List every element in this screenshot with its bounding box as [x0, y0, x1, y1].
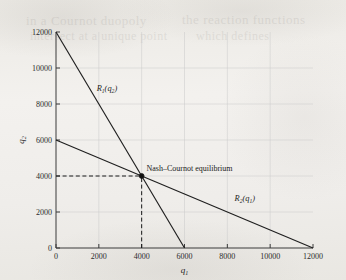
series-label-r2-arg-open: (q: [242, 194, 249, 203]
xticklabel-12000: 12000: [303, 252, 323, 261]
xticklabel-10000: 10000: [260, 252, 280, 261]
equilibrium-point-marker: [139, 174, 144, 179]
xticklabel-4000: 4000: [134, 252, 150, 261]
yticklabel-4000: 4000: [36, 172, 52, 181]
yticklabel-8000: 8000: [36, 100, 52, 109]
svg-text:R1(q2): R1(q2): [96, 84, 118, 94]
series-label-r1-arg-close: ): [113, 84, 117, 93]
yticklabel-6000: 6000: [36, 136, 52, 145]
chart-canvas: 0 2000 4000 6000 8000 10000 12000 0 2000…: [0, 0, 346, 280]
grid-lines: [56, 32, 313, 248]
x-axis-title: q1: [181, 265, 189, 276]
series-label-r1: R1(q2): [96, 84, 118, 94]
series-label-r1-arg-open: (q: [105, 84, 112, 93]
yticklabel-0: 0: [48, 244, 52, 253]
y-tick-labels: 0 2000 4000 6000 8000 10000 12000: [32, 28, 52, 253]
xticklabel-8000: 8000: [219, 252, 235, 261]
series-label-r2-arg-close: ): [251, 194, 255, 203]
y-axis-title-sub: 2: [21, 136, 27, 139]
series-label-r2: R2(q1): [234, 194, 256, 204]
xticklabel-2000: 2000: [91, 252, 107, 261]
yticklabel-10000: 10000: [32, 64, 52, 73]
yticklabel-2000: 2000: [36, 208, 52, 217]
xticklabel-0: 0: [54, 252, 58, 261]
yticklabel-12000: 12000: [32, 28, 52, 37]
svg-text:R2(q1): R2(q1): [234, 194, 256, 204]
cournot-reaction-function-chart: 0 2000 4000 6000 8000 10000 12000 0 2000…: [0, 0, 346, 280]
x-axis-title-sub: 1: [185, 270, 188, 276]
xticklabel-6000: 6000: [177, 252, 193, 261]
y-axis-title: q2: [16, 136, 27, 144]
x-tick-labels: 0 2000 4000 6000 8000 10000 12000: [54, 252, 323, 261]
equilibrium-annotation-label: Nash–Cournot equilibrium: [147, 164, 234, 173]
